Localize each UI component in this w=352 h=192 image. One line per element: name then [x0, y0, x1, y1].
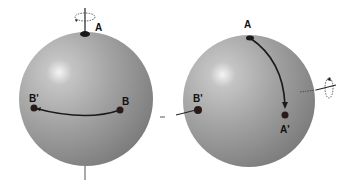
- point-a-prime: [282, 112, 289, 119]
- right-sphere: A A' B': [176, 19, 336, 167]
- point-b-prime: [31, 105, 38, 112]
- point-b: [117, 107, 124, 114]
- left-sphere: A B B': [19, 8, 153, 180]
- point-a: [80, 31, 90, 37]
- label-b: B: [122, 96, 129, 107]
- label-b-prime: B': [29, 93, 39, 104]
- label-a: A: [95, 22, 102, 33]
- point-b-prime: [194, 106, 202, 114]
- label-a-prime: A': [280, 124, 290, 135]
- rotation-diagram: A B B' A A' B': [0, 0, 352, 192]
- label-a: A: [244, 19, 251, 30]
- label-b-prime: B': [193, 93, 203, 104]
